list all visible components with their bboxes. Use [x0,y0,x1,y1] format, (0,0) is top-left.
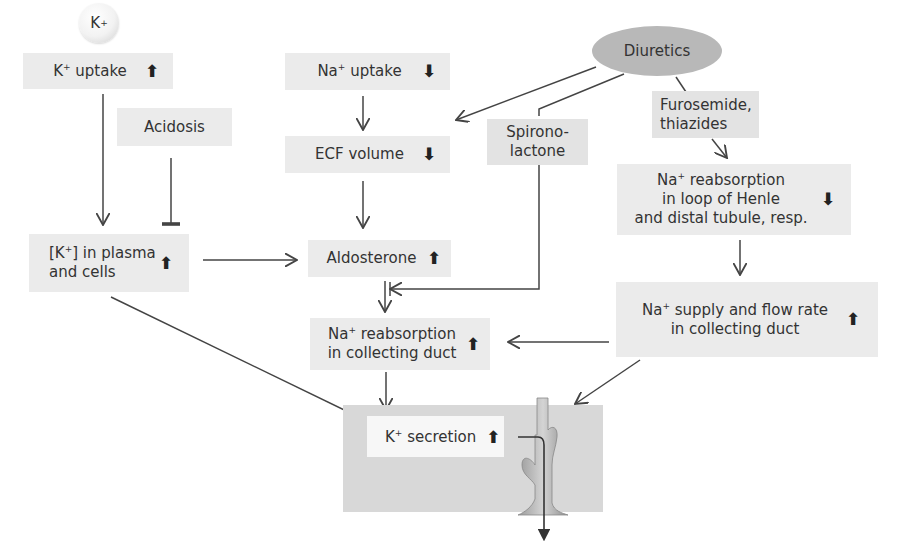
node-na-reabsorption-henle: Na+ reabsorptionin loop of Henleand dist… [617,164,851,235]
node-k-plasma: [K+] in plasmaand cells ⬆ [29,234,189,292]
node-furosemide: Furosemide,thiazides [652,91,759,138]
edge-diuretics-spironolactone [539,74,624,116]
edge-diuretics-furosemide [676,77,686,92]
node-na-uptake: Na+ uptake ⬇ [285,53,450,90]
node-na-reabsorption-henle-label: Na+ reabsorptionin loop of Henleand dist… [623,171,819,228]
potassium-ion-icon: K+ [79,3,119,43]
tubule-shape [518,398,568,515]
arrow-down-icon: ⬇ [420,62,438,81]
arrow-up-icon: ⬆ [464,335,482,354]
node-na-uptake-label: Na+ uptake [299,62,420,81]
node-aldosterone-label: Aldosterone [318,249,425,268]
node-diuretics-label: Diuretics [624,42,690,60]
node-acidosis: Acidosis [117,108,232,146]
arrow-up-icon: ⬆ [844,310,862,329]
node-ecf-volume: ECF volume ⬇ [285,136,450,173]
node-aldosterone: Aldosterone ⬆ [308,240,451,277]
edge-supply-ksecretion [575,360,640,404]
node-na-supply-label: Na+ supply and flow ratein collecting du… [626,301,844,339]
node-ecf-volume-label: ECF volume [299,145,420,164]
node-na-reabsorption-cd-label: Na+ reabsorptionin collecting duct [320,325,464,363]
arrow-up-icon: ⬆ [157,254,175,273]
arrow-down-icon: ⬇ [819,190,837,209]
collecting-duct-illustration [500,395,580,541]
node-na-supply: Na+ supply and flow ratein collecting du… [616,282,878,357]
node-na-reabsorption-cd: Na+ reabsorptionin collecting duct ⬆ [310,318,490,370]
arrow-up-icon: ⬆ [425,249,443,268]
node-k-secretion: K+ secretion ⬆ [367,416,504,457]
arrow-up-icon: ⬆ [143,62,161,81]
node-spironolactone-label: Spirono-lactone [487,123,588,161]
node-diuretics: Diuretics [592,26,722,76]
node-spironolactone: Spirono-lactone [487,119,588,165]
node-acidosis-label: Acidosis [117,118,232,137]
node-k-uptake-label: K+ uptake [37,62,143,81]
node-k-secretion-label: K+ secretion [385,428,476,446]
node-k-plasma-label: [K+] in plasmaand cells [49,244,157,282]
arrow-down-icon: ⬇ [420,145,438,164]
node-k-uptake: K+ uptake ⬆ [23,53,173,89]
edge-furosemide-henle [712,139,727,158]
node-furosemide-label: Furosemide,thiazides [660,96,759,134]
